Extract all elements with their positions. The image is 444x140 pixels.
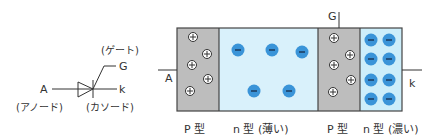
hole-icon — [186, 87, 195, 96]
electron-icon — [383, 74, 396, 87]
hole-icon — [330, 34, 339, 43]
hole-icon — [203, 50, 212, 59]
electron-icon — [232, 44, 245, 57]
electron-icon — [365, 74, 378, 87]
hole-icon — [189, 33, 198, 42]
structure-cathode-label: k — [409, 78, 415, 89]
hole-icon — [346, 51, 355, 60]
n-region-light — [219, 28, 318, 111]
structure-anode-label: A — [165, 73, 173, 84]
hole-icon — [204, 75, 213, 84]
symbol-cathode-letter: k — [119, 84, 125, 95]
thyristor-symbol — [52, 66, 117, 98]
gate-name-label: (ゲート) — [101, 46, 139, 56]
hole-icon — [347, 76, 356, 85]
thyristor-diagram — [0, 0, 444, 140]
electron-icon — [383, 34, 396, 47]
electron-icon — [365, 53, 378, 66]
electron-icon — [296, 46, 309, 59]
electron-icon — [266, 44, 279, 57]
electron-icon — [248, 85, 261, 98]
electron-icon — [365, 34, 378, 47]
gate-lead-diag — [93, 66, 104, 89]
electron-icon — [383, 93, 396, 106]
hole-icon — [329, 88, 338, 97]
symbol-anode-letter: A — [40, 84, 48, 95]
electron-icon — [365, 93, 378, 106]
cathode-name-label: (カソード) — [86, 103, 134, 113]
region-label-n-heavy: n 型 (濃い) — [363, 124, 419, 135]
p-region-2 — [318, 28, 360, 111]
region-label-p2: P 型 — [327, 124, 348, 135]
symbol-gate-letter: G — [119, 61, 128, 72]
region-label-p1: P 型 — [184, 124, 205, 135]
p-region-1 — [177, 28, 219, 111]
electron-icon — [283, 85, 296, 98]
hole-icon — [188, 61, 197, 70]
electron-icon — [383, 53, 396, 66]
structure-gate-label: G — [328, 11, 337, 22]
hole-icon — [330, 61, 339, 70]
region-label-n-light: n 型 (薄い) — [233, 124, 289, 135]
anode-name-label: (アノード) — [16, 103, 63, 113]
